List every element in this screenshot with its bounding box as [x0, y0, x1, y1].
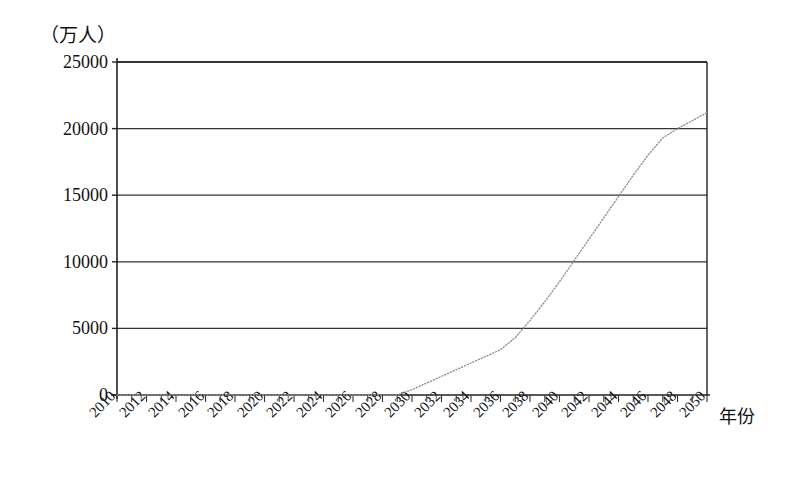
- data-series-line: [117, 113, 707, 395]
- gridlines: [117, 62, 707, 328]
- chart-container: （万人） 年份 0500010000150002000025000 201020…: [0, 0, 790, 477]
- plot-area: [0, 0, 790, 477]
- axis-frame: [111, 58, 710, 399]
- x-axis-ticks: [117, 395, 707, 402]
